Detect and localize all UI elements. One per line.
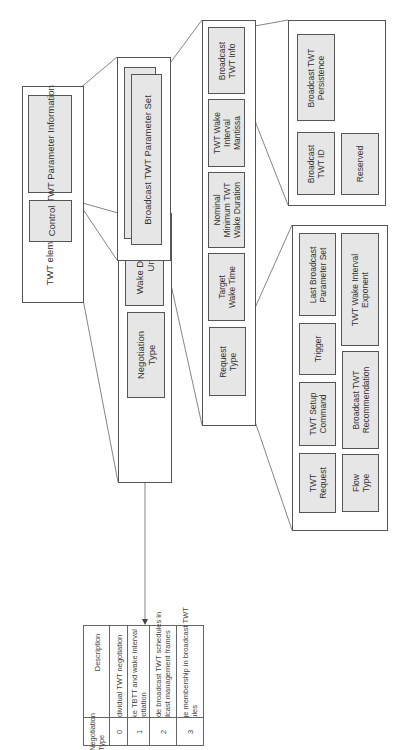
- table-row-1-description: Wake TBTT and wake interval negotiation: [127, 625, 150, 718]
- table-row-3-description: Manage membership in broadcast TWT sched…: [176, 625, 204, 718]
- field-label: Last Broadcast Parameter Set: [308, 246, 328, 303]
- twt-setup-command-field[interactable]: TWT Setup Command: [299, 382, 336, 446]
- field-label: Target Wake Time: [217, 266, 237, 308]
- field-label: TWT Request: [308, 467, 328, 499]
- negotiation-type-table: Description Negotiation Type Individual …: [83, 625, 204, 746]
- field-label: Negotiation Type: [135, 331, 157, 379]
- flow-type-field[interactable]: Flow Type: [342, 454, 379, 512]
- broadcast-twt-info-field[interactable]: Broadcast TWT Info: [208, 27, 245, 94]
- trigger-field[interactable]: Trigger: [299, 323, 336, 375]
- table-row-2-description: Provide broadcast TWT schedules in broad…: [149, 625, 177, 718]
- field-label: Broadcast TWT Persistence: [306, 48, 326, 107]
- header-text: Description: [93, 634, 102, 672]
- cell-text: 3: [186, 729, 195, 733]
- field-label: Trigger: [313, 336, 323, 363]
- field-label: Broadcast TWT Recommendation: [351, 367, 371, 434]
- broadcast-twt-persistence-field[interactable]: Broadcast TWT Persistence: [297, 34, 335, 121]
- field-label: Request Type: [218, 346, 238, 378]
- request-type-field[interactable]: Request Type: [209, 327, 246, 396]
- twt-request-field[interactable]: TWT Request: [299, 453, 336, 513]
- twt-wake-interval-mantissa-field[interactable]: TWT Wake Interval Mantissa: [208, 99, 245, 167]
- field-label: TWT Setup Command: [308, 393, 328, 436]
- field-label: Flow Type: [351, 474, 371, 492]
- table-row-2-type: 2: [149, 717, 177, 746]
- twt-parameter-information-field[interactable]: TWT Parameter Information: [28, 95, 72, 193]
- last-broadcast-parameter-set-field[interactable]: Last Broadcast Parameter Set: [299, 233, 336, 316]
- field-label: Nominal Minimum TWT Wake Duration: [212, 182, 242, 238]
- broadcast-twt-parameter-set-field[interactable]: Broadcast TWT Parameter Set: [131, 74, 162, 245]
- table-header-negotiation-type: Negotiation Type: [83, 717, 110, 746]
- field-label: TWT Wake Interval Exponent: [350, 253, 370, 325]
- table-header-description: Description: [83, 625, 110, 718]
- table-row-0-description: Individual TWT negotiation: [109, 625, 128, 718]
- broadcast-twt-recommendation-field[interactable]: Broadcast TWT Recommendation: [342, 351, 379, 449]
- control-field[interactable]: Control: [29, 200, 72, 242]
- reserved-field[interactable]: Reserved: [341, 133, 379, 195]
- cell-text: 0: [114, 729, 123, 733]
- broadcast-twt-id-field[interactable]: Broadcast TWT ID: [297, 132, 335, 195]
- table-row-1-type: 1: [127, 717, 150, 746]
- nominal-minimum-twt-wake-duration-field[interactable]: Nominal Minimum TWT Wake Duration: [208, 172, 245, 248]
- negotiation-type-field[interactable]: Negotiation Type: [127, 312, 165, 398]
- header-text: Negotiation Type: [88, 713, 106, 750]
- field-label: Broadcast TWT Parameter Set: [141, 95, 152, 225]
- twt-wake-interval-exponent-field[interactable]: TWT Wake Interval Exponent: [341, 233, 379, 346]
- cell-text: Wake TBTT and wake interval negotiation: [130, 629, 148, 729]
- field-label: Broadcast TWT Info: [217, 41, 237, 79]
- cell-text: 2: [159, 729, 168, 733]
- field-label: Reserved: [355, 146, 365, 182]
- field-label: TWT Parameter Information: [45, 85, 56, 203]
- table-row-0-type: 0: [109, 717, 128, 746]
- cell-text: Individual TWT negotiation: [114, 635, 123, 724]
- table-row-3-type: 3: [176, 717, 204, 746]
- cell-text: 1: [134, 729, 143, 733]
- field-label: Broadcast TWT ID: [306, 144, 326, 182]
- target-wake-time-field[interactable]: Target Wake Time: [208, 253, 245, 321]
- field-label: Control: [45, 206, 56, 237]
- field-label: TWT Wake Interval Mantissa: [212, 112, 242, 154]
